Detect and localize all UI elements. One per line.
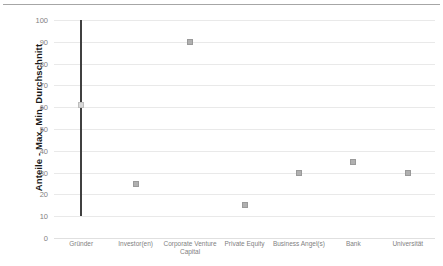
gridline bbox=[54, 216, 435, 217]
y-axis-tick-label: 30 bbox=[40, 168, 48, 177]
gridline bbox=[54, 238, 435, 239]
average-marker bbox=[187, 39, 193, 45]
y-axis-tick-label: 80 bbox=[40, 59, 48, 68]
gridline bbox=[54, 173, 435, 174]
average-marker bbox=[296, 170, 302, 176]
gridline bbox=[54, 64, 435, 65]
gridline bbox=[54, 151, 435, 152]
y-axis-tick-label: 40 bbox=[40, 146, 48, 155]
gridline bbox=[54, 20, 435, 21]
gridline bbox=[54, 107, 435, 108]
chart-root: Anteile - Max, Min, Durchschnitt 0102030… bbox=[0, 0, 443, 266]
average-marker bbox=[78, 102, 84, 108]
average-marker bbox=[405, 170, 411, 176]
gridline bbox=[54, 194, 435, 195]
average-marker bbox=[242, 202, 248, 208]
y-axis-tick-label: 50 bbox=[40, 125, 48, 134]
range-bar bbox=[80, 20, 82, 216]
x-axis-labels: GründerInvestor(en)Corporate Venture Cap… bbox=[54, 240, 435, 264]
y-axis-tick-label: 100 bbox=[35, 16, 48, 25]
x-axis-tick-label: Universität bbox=[374, 240, 442, 248]
y-axis-tick-label: 60 bbox=[40, 103, 48, 112]
y-axis-title: Anteile - Max, Min, Durchschnitt bbox=[33, 18, 44, 218]
gridline bbox=[54, 42, 435, 43]
y-axis-tick-label: 70 bbox=[40, 81, 48, 90]
average-marker bbox=[350, 159, 356, 165]
y-axis-tick-label: 90 bbox=[40, 37, 48, 46]
gridline bbox=[54, 129, 435, 130]
top-divider-rule bbox=[3, 4, 440, 5]
y-axis-tick-label: 10 bbox=[40, 212, 48, 221]
y-axis-tick-label: 20 bbox=[40, 190, 48, 199]
plot-area: 0102030405060708090100 bbox=[54, 20, 435, 238]
gridline bbox=[54, 85, 435, 86]
average-marker bbox=[133, 181, 139, 187]
